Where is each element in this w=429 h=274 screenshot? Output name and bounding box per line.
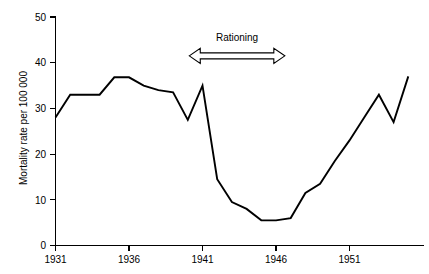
x-tick-label-1941: 1941 xyxy=(191,254,214,265)
y-tick-label-20: 20 xyxy=(35,149,47,160)
line-chart-svg: Mortality rate per 100 000 0 10 20 30 40… xyxy=(0,0,429,274)
y-tick-label-40: 40 xyxy=(35,57,47,68)
y-axis-ticks: 0 10 20 30 40 50 xyxy=(35,12,56,251)
rationing-label: Rationing xyxy=(216,32,258,43)
y-tick-label-10: 10 xyxy=(35,195,47,206)
x-tick-label-1931: 1931 xyxy=(44,254,67,265)
x-tick-label-1936: 1936 xyxy=(118,254,141,265)
x-axis-ticks: 1931 1936 1941 1946 1951 xyxy=(44,246,361,266)
y-tick-label-50: 50 xyxy=(35,12,47,23)
y-tick-label-0: 0 xyxy=(40,240,46,251)
x-tick-label-1951: 1951 xyxy=(338,254,361,265)
mortality-rate-series-line xyxy=(56,76,409,220)
y-tick-label-30: 30 xyxy=(35,103,47,114)
x-tick-label-1946: 1946 xyxy=(265,254,288,265)
chart-container: Mortality rate per 100 000 0 10 20 30 40… xyxy=(0,0,429,274)
y-axis-title: Mortality rate per 100 000 xyxy=(18,71,29,185)
rationing-annotation: Rationing xyxy=(189,32,285,63)
double-headed-arrow-icon xyxy=(189,48,285,63)
